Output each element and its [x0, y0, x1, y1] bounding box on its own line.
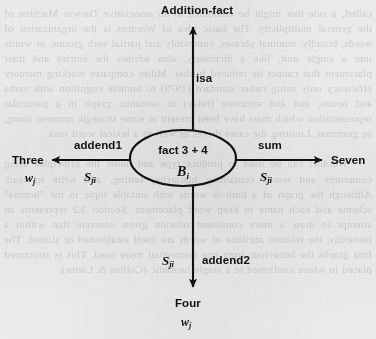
node-weight-three-base: w — [25, 171, 33, 185]
node-label-three: Three — [12, 155, 44, 167]
edge-label-isa: isa — [196, 73, 212, 85]
center-node-label-bi: Bi — [131, 165, 235, 181]
node-weight-four: wj — [181, 316, 191, 330]
edge-weight-addend2: Sji — [162, 254, 174, 269]
edge-weight-sum-sub: ji — [267, 175, 272, 185]
center-node-label-bi-sub: i — [186, 171, 189, 181]
node-label-addition-fact: Addition-fact — [161, 5, 233, 17]
diagram-canvas: called, a rule that might be embodied in… — [0, 0, 376, 339]
edge-weight-addend1: Sji — [84, 170, 96, 185]
node-label-seven: Seven — [331, 155, 365, 167]
edge-label-addend1: addend1 — [74, 140, 122, 152]
node-weight-four-sub: j — [189, 321, 191, 330]
node-label-four: Four — [175, 298, 201, 310]
node-weight-four-base: w — [181, 315, 189, 329]
edge-weight-addend1-sub: ji — [91, 175, 96, 185]
edge-weight-sum: Sji — [260, 170, 272, 185]
edge-label-addend2: addend2 — [202, 255, 250, 267]
center-node-label-bi-base: B — [177, 164, 186, 179]
center-node-label-fact: fact 3 + 4 — [131, 145, 235, 157]
edge-label-sum: sum — [258, 140, 282, 152]
node-weight-three-sub: j — [33, 177, 35, 186]
node-weight-three: wj — [25, 172, 35, 186]
edge-weight-addend2-sub: ji — [169, 259, 174, 269]
